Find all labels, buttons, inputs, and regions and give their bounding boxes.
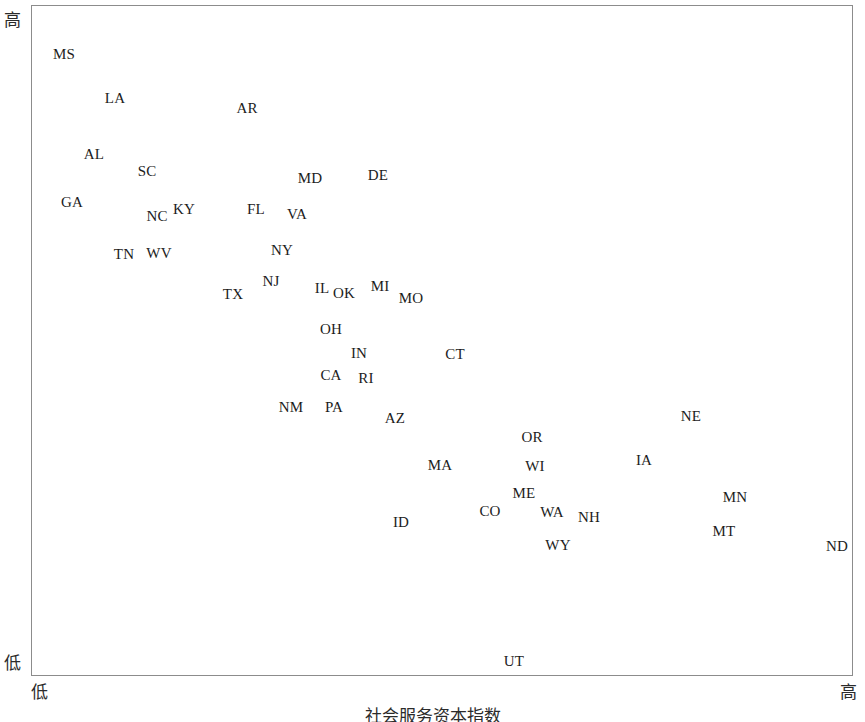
data-point-mn: MN <box>723 490 748 505</box>
data-point-va: VA <box>287 207 307 222</box>
data-point-ct: CT <box>445 347 465 362</box>
data-point-tn: TN <box>114 247 134 262</box>
data-point-oh: OH <box>320 322 342 337</box>
data-point-nj: NJ <box>262 274 279 289</box>
data-point-mo: MO <box>399 291 424 306</box>
data-point-ok: OK <box>333 286 355 301</box>
y-axis-low-label: 低 <box>4 655 21 672</box>
data-point-al: AL <box>84 147 104 162</box>
data-point-fl: FL <box>247 202 265 217</box>
y-axis-high-label: 高 <box>4 12 21 29</box>
data-point-il: IL <box>315 281 330 296</box>
data-point-in: IN <box>351 346 367 361</box>
data-point-ia: IA <box>636 453 652 468</box>
data-point-nd: ND <box>826 539 848 554</box>
data-point-mt: MT <box>713 524 736 539</box>
data-point-la: LA <box>105 91 125 106</box>
data-point-de: DE <box>368 168 388 183</box>
data-point-ky: KY <box>173 202 195 217</box>
data-point-nm: NM <box>279 400 304 415</box>
data-point-nh: NH <box>578 510 600 525</box>
data-point-md: MD <box>298 171 323 186</box>
x-axis-title: 社会服务资本指数 <box>0 708 865 722</box>
data-point-ri: RI <box>358 371 373 386</box>
plot-area: MSLAARALSCMDDEGANCKYFLVATNWVNYNJTXILOKMI… <box>31 5 853 676</box>
data-point-pa: PA <box>325 400 343 415</box>
x-axis-high-label: 高 <box>840 684 857 701</box>
data-point-wa: WA <box>540 505 564 520</box>
data-point-ut: UT <box>504 654 524 669</box>
data-point-sc: SC <box>138 164 157 179</box>
data-point-ma: MA <box>428 458 453 473</box>
data-point-me: ME <box>513 486 536 501</box>
data-point-ga: GA <box>61 195 83 210</box>
data-point-ca: CA <box>320 368 341 383</box>
data-point-ny: NY <box>271 243 293 258</box>
data-point-ms: MS <box>53 47 75 62</box>
data-point-or: OR <box>521 430 542 445</box>
data-point-wi: WI <box>525 459 545 474</box>
x-axis-low-label: 低 <box>31 684 48 701</box>
data-point-wv: WV <box>146 246 171 261</box>
data-point-id: ID <box>393 515 409 530</box>
data-point-co: CO <box>479 504 500 519</box>
data-point-az: AZ <box>385 411 405 426</box>
data-point-nc: NC <box>146 209 167 224</box>
scatter-plot-figure: 高 低 MSLAARALSCMDDEGANCKYFLVATNWVNYNJTXIL… <box>0 0 865 722</box>
data-point-ne: NE <box>681 409 701 424</box>
data-point-wy: WY <box>545 538 570 553</box>
data-point-ar: AR <box>236 101 257 116</box>
data-point-mi: MI <box>371 279 390 294</box>
data-point-tx: TX <box>223 287 243 302</box>
